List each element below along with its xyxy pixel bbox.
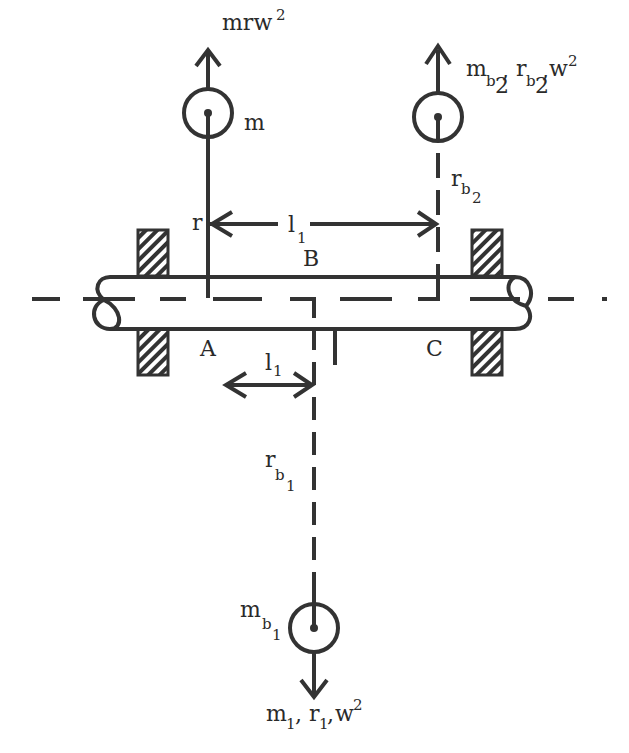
svg-text:1: 1 xyxy=(297,229,307,247)
svg-text:m: m xyxy=(266,701,287,726)
balance-mass-mb1 xyxy=(290,299,338,697)
label-bottom-force: m 1 , r 1 , w 2 xyxy=(266,696,363,733)
svg-text:m: m xyxy=(466,56,487,81)
svg-text:b: b xyxy=(461,180,471,198)
label-rb2: r b 2 xyxy=(451,166,482,207)
label-point-A: A xyxy=(199,336,217,361)
svg-text:1: 1 xyxy=(286,477,296,495)
svg-text:,: , xyxy=(295,702,302,727)
svg-text:1: 1 xyxy=(272,626,282,644)
svg-text:m: m xyxy=(240,597,261,622)
svg-text:2: 2 xyxy=(276,6,286,24)
svg-text:2: 2 xyxy=(472,189,482,207)
svg-text:b: b xyxy=(275,466,285,484)
label-point-B: B xyxy=(303,246,319,271)
label-mass-m: m xyxy=(244,110,265,135)
dimension-l1-top xyxy=(210,212,436,236)
mass-m xyxy=(184,50,232,298)
label-mb1: m b 1 xyxy=(240,597,282,644)
svg-text:,: , xyxy=(542,58,549,83)
svg-text:2: 2 xyxy=(353,696,363,714)
balancing-diagram: mrw 2 m m b 2 , r b 2 , w 2 r b 2 r l 1 … xyxy=(0,0,629,753)
label-point-C: C xyxy=(426,336,443,361)
svg-text:b: b xyxy=(262,615,272,633)
label-rb1: r b 1 xyxy=(265,447,296,495)
svg-text:l: l xyxy=(265,350,272,375)
svg-text:mrw: mrw xyxy=(222,10,272,35)
svg-text:w: w xyxy=(335,701,354,726)
label-top-force: mrw 2 xyxy=(222,6,286,35)
svg-text:w: w xyxy=(549,56,568,81)
label-l1-top: l 1 xyxy=(288,212,307,247)
right-bearing xyxy=(472,230,502,375)
label-r: r xyxy=(192,210,203,235)
svg-text:1: 1 xyxy=(273,362,283,380)
dimension-l1-bottom xyxy=(226,373,312,397)
label-l1-bottom: l 1 xyxy=(265,350,283,380)
left-bearing xyxy=(138,230,168,375)
svg-text:,: , xyxy=(502,58,509,83)
label-top-right-force: m b 2 , r b 2 , w 2 xyxy=(466,52,578,98)
svg-text:2: 2 xyxy=(568,52,578,70)
svg-text:l: l xyxy=(288,212,295,237)
svg-text:,: , xyxy=(327,702,334,727)
